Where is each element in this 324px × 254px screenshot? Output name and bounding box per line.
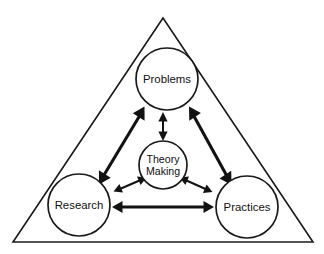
theory-making-diagram: Problems Research Practices Theory Makin…	[0, 0, 324, 254]
arrow-head-up	[158, 112, 167, 122]
arrow-shaft	[103, 114, 142, 178]
diagram-canvas: Problems Research Practices Theory Makin…	[0, 0, 324, 254]
arrow-research-practices	[112, 201, 214, 213]
node-practices[interactable]: Practices	[216, 176, 278, 238]
theory-making-label-line-2: Making	[146, 165, 180, 177]
arrow-research-problems	[99, 107, 145, 185]
node-research[interactable]: Research	[48, 174, 110, 236]
arrow-shaft	[193, 114, 229, 179]
arrow-problems-practices	[189, 107, 232, 186]
theory-making-label-line-1: Theory	[147, 153, 181, 165]
arrow-theory-practices	[180, 176, 213, 193]
arrow-theory-research	[114, 176, 147, 192]
arrow-shaft	[121, 181, 140, 189]
arrow-head-right	[204, 201, 215, 213]
arrow-shaft	[187, 181, 206, 190]
arrow-theory-problems	[158, 112, 167, 141]
problems-label: Problems	[143, 73, 191, 85]
practices-label: Practices	[224, 201, 271, 213]
node-theory-making[interactable]: Theory Making	[139, 141, 187, 189]
research-label: Research	[55, 199, 104, 211]
arrow-head-down	[158, 132, 167, 142]
node-problems[interactable]: Problems	[136, 48, 198, 110]
arrow-head-left	[112, 201, 123, 213]
